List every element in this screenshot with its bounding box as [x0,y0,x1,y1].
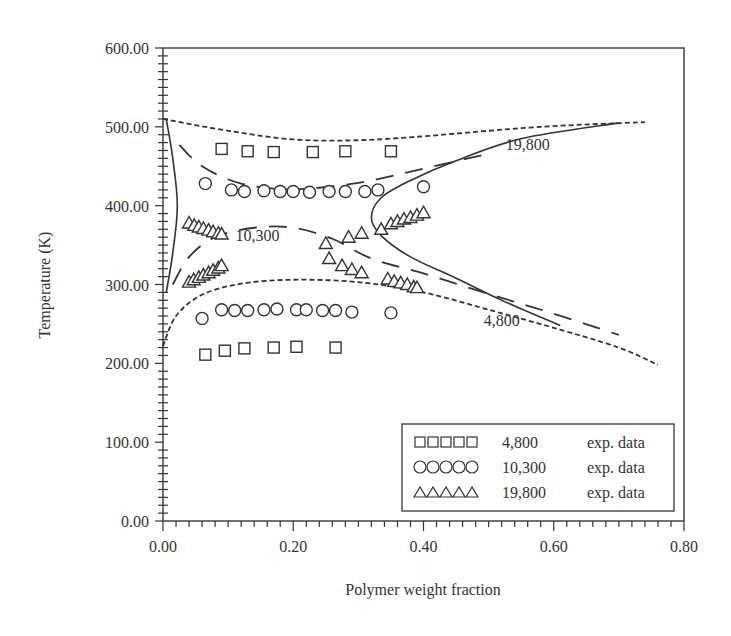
circle-marker [330,305,342,317]
legend-label: 4,800 [502,434,538,451]
square-marker [385,146,396,157]
circle-marker [199,178,211,190]
circle-marker [372,184,384,196]
curve-label: 4,800 [484,312,520,329]
circle-marker [359,185,371,197]
y-axis-title: Temperature (K) [36,232,54,339]
legend-square-icon [467,437,477,447]
circle-marker [258,185,270,197]
legend-circle-icon [453,461,465,473]
triangle-marker [342,231,355,243]
triangle-marker [355,227,368,239]
square-marker [268,342,279,353]
legend-circle-icon [440,461,452,473]
circle-marker [216,304,228,316]
x-axis: 0.000.200.400.600.80 [149,521,698,555]
square-marker [219,345,230,356]
circle-marker [242,305,254,317]
circle-marker [300,304,312,316]
y-tick-label: 300.00 [105,277,149,294]
circle-marker [385,307,397,319]
circle-marker [418,181,430,193]
y-tick-label: 500.00 [105,119,149,136]
square-marker [340,146,351,157]
legend-circle-icon [427,461,439,473]
circle-marker [339,185,351,197]
legend-label: 19,800 [502,484,546,501]
legend-label: 10,300 [502,459,546,476]
curve-label: 19,800 [506,136,550,153]
x-tick-label: 0.00 [149,538,177,555]
square-marker [216,143,227,154]
square-marker [330,342,341,353]
legend-square-icon [428,437,438,447]
legend-square-icon [415,437,425,447]
legend-suffix: exp. data [587,484,645,502]
y-tick-label: 400.00 [105,198,149,215]
square-marker [268,147,279,158]
circle-marker [323,185,335,197]
legend-square-icon [454,437,464,447]
square-marker [291,341,302,352]
model-curve-solid-left-branch [166,119,177,292]
square-marker [200,349,211,360]
legend-circle-icon [414,461,426,473]
square-marker [242,146,253,157]
x-axis-title: Polymer weight fraction [345,581,501,599]
circle-marker [271,303,283,315]
circle-marker [238,185,250,197]
phase-diagram-chart: 0.00100.00200.00300.00400.00500.00600.00… [0,0,731,636]
square-marker [239,343,250,354]
y-tick-label: 0.00 [121,513,149,530]
circle-marker [346,306,358,318]
circle-marker [274,185,286,197]
legend-suffix: exp. data [587,459,645,477]
x-tick-label: 0.80 [670,538,698,555]
y-tick-label: 200.00 [105,355,149,372]
legend-suffix: exp. data [587,434,645,452]
triangle-marker [336,259,349,271]
y-axis: 0.00100.00200.00300.00400.00500.00600.00 [105,40,168,530]
y-tick-label: 600.00 [105,40,149,57]
circle-marker [258,304,270,316]
legend-square-icon [441,437,451,447]
x-tick-label: 0.40 [410,538,438,555]
x-tick-label: 0.60 [540,538,568,555]
legend: 4,800exp. data10,300exp. data19,800exp. … [402,424,674,511]
legend-circle-icon [466,461,478,473]
circle-marker [304,186,316,198]
circle-marker [225,184,237,196]
y-tick-label: 100.00 [105,434,149,451]
circle-marker [229,305,241,317]
circle-marker [196,312,208,324]
curve-label: 10,300 [235,227,279,244]
x-tick-label: 0.20 [279,538,307,555]
triangle-marker [323,252,336,263]
square-marker [307,147,318,158]
circle-marker [317,305,329,317]
circle-marker [287,185,299,197]
